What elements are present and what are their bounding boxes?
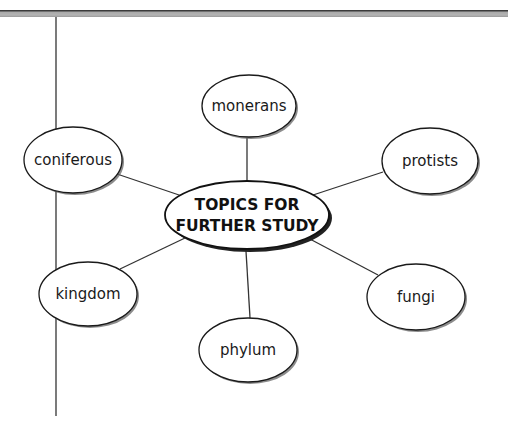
node-label-phylum: phylum [220, 341, 276, 359]
center-node: TOPICS FOR FURTHER STUDY [165, 181, 332, 252]
connector-kingdom [120, 238, 185, 269]
center-ellipse-shape [165, 181, 329, 249]
node-label-protists: protists [402, 152, 458, 170]
connector-phylum [246, 251, 250, 318]
connector-protists [310, 172, 383, 196]
node-label-kingdom: kingdom [55, 285, 120, 303]
node-protists: protists [382, 128, 480, 196]
center-label-line1: TOPICS FOR [195, 196, 300, 214]
node-phylum: phylum [199, 318, 299, 384]
connector-coniferous [117, 174, 182, 196]
concept-web-diagram: monerans coniferous protists kingdom fun… [0, 0, 508, 441]
connector-fungi [308, 238, 378, 275]
node-fungi: fungi [367, 264, 467, 332]
node-monerans: monerans [202, 75, 298, 139]
node-label-coniferous: coniferous [34, 151, 112, 169]
center-label-line2: FURTHER STUDY [175, 217, 319, 235]
node-coniferous: coniferous [24, 127, 124, 195]
node-label-fungi: fungi [397, 288, 435, 306]
node-kingdom: kingdom [39, 262, 139, 328]
node-label-monerans: monerans [211, 97, 286, 115]
